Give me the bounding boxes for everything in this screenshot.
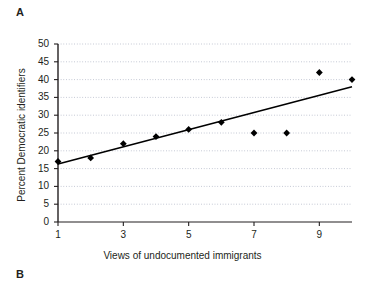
y-axis-title: Percent Democratic identifiers [16,40,27,230]
trend-line [58,87,352,164]
x-axis-tick-label: 9 [309,229,329,240]
x-axis-title: Views of undocumented immigrants [0,250,365,261]
data-point [283,130,290,137]
y-axis-tick-label: 5 [27,198,49,209]
y-axis-title-wrapper: Percent Democratic identifiers [16,40,30,230]
gridlines [58,44,352,204]
figure-root: A B 05101520253035404550 13579 Views of … [0,0,365,281]
y-axis-tick-label: 50 [27,38,49,49]
x-axis-tick-label: 5 [179,229,199,240]
y-axis-tick-label: 45 [27,56,49,67]
y-axis-tick-label: 40 [27,74,49,85]
data-point-markers [55,69,356,165]
y-axis-tick-label: 20 [27,145,49,156]
x-axis-tick-label: 1 [48,229,68,240]
y-axis-tick-label: 25 [27,127,49,138]
y-axis-tick-label: 10 [27,180,49,191]
x-axis-tick-label: 7 [244,229,264,240]
data-point [316,69,323,76]
x-axis-ticks [58,222,319,226]
y-axis-tick-label: 0 [27,216,49,227]
axis-lines [58,44,352,222]
x-axis-tick-label: 3 [113,229,133,240]
data-point [185,126,192,133]
data-point [349,76,356,83]
y-axis-tick-label: 30 [27,109,49,120]
y-axis-tick-label: 35 [27,91,49,102]
y-axis-tick-label: 15 [27,163,49,174]
regression-line [58,87,352,164]
data-point [251,130,258,137]
